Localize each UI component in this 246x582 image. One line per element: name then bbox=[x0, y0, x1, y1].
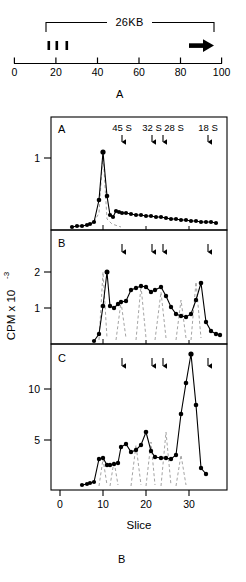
gradient-profiles-panel: CPM x 10 -3 A 1 45 S 32 S 28 S 18 S bbox=[2, 117, 227, 565]
x-axis-label: Slice bbox=[127, 519, 152, 531]
subpanel-c-ytick-5: 5 bbox=[34, 434, 40, 446]
marker-labels: 45 S 32 S 28 S 18 S bbox=[112, 122, 218, 133]
restriction-map-panel: 26KB 0 20 40 60 80 100 bbox=[11, 16, 230, 100]
map-tick-80: 80 bbox=[175, 66, 187, 78]
x-tick-30: 30 bbox=[183, 498, 195, 510]
map-tick-60: 60 bbox=[133, 66, 145, 78]
x-tick-0: 0 bbox=[57, 498, 63, 510]
marker-label-32s: 32 S bbox=[142, 122, 162, 133]
subpanel-a-dashed bbox=[94, 153, 121, 227]
subpanel-a-ytick-1: 1 bbox=[34, 152, 40, 164]
subpanel-a-points bbox=[70, 149, 218, 229]
subpanel-c-trace bbox=[82, 354, 206, 485]
map-tick-100: 100 bbox=[213, 66, 231, 78]
x-axis-ticklabels: 0 10 20 30 bbox=[57, 498, 195, 510]
subpanel-b-points bbox=[92, 270, 222, 344]
figure-svg: 26KB 0 20 40 60 80 100 bbox=[0, 0, 246, 582]
kb-span-label: 26KB bbox=[115, 16, 143, 28]
map-tick-20: 20 bbox=[50, 66, 62, 78]
marker-label-18s: 18 S bbox=[198, 122, 218, 133]
x-tick-20: 20 bbox=[140, 498, 152, 510]
exon-blocks bbox=[48, 41, 69, 50]
y-axis-label: CPM x 10 bbox=[5, 290, 17, 341]
x-tick-10: 10 bbox=[97, 498, 109, 510]
y-axis-label-group: CPM x 10 -3 bbox=[2, 271, 17, 340]
subpanel-a-label: A bbox=[58, 123, 66, 135]
subpanel-b-label: B bbox=[58, 237, 65, 249]
subpanel-c-points bbox=[80, 351, 208, 487]
subpanel-c-label: C bbox=[58, 352, 66, 364]
marker-label-28s: 28 S bbox=[164, 122, 184, 133]
subpanel-c-ytick-10: 10 bbox=[28, 383, 40, 395]
subpanel-b-ytick-1: 1 bbox=[34, 302, 40, 314]
panel-a-caption: A bbox=[116, 88, 124, 100]
subpanel-a: A 1 45 S 32 S 28 S 18 S bbox=[34, 117, 227, 230]
subpanel-b: B 2 1 bbox=[34, 230, 227, 344]
x-axis-ticks bbox=[60, 490, 189, 496]
subpanel-b-ytick-2: 2 bbox=[34, 266, 40, 278]
map-axis-ticklabels: 0 20 40 60 80 100 bbox=[11, 66, 230, 78]
y-axis-exponent: -3 bbox=[2, 271, 11, 279]
direction-arrow-icon bbox=[189, 39, 214, 52]
figure-container: 26KB 0 20 40 60 80 100 bbox=[0, 0, 246, 582]
map-tick-0: 0 bbox=[11, 66, 17, 78]
map-axis bbox=[14, 58, 222, 64]
marker-label-45s: 45 S bbox=[112, 122, 132, 133]
map-tick-40: 40 bbox=[92, 66, 104, 78]
marker-arrows-b bbox=[122, 244, 208, 252]
subpanel-c: C 10 5 bbox=[28, 344, 227, 531]
marker-arrows-c bbox=[122, 358, 208, 366]
panel-b-caption: B bbox=[118, 553, 126, 565]
marker-arrows-a bbox=[122, 135, 208, 142]
